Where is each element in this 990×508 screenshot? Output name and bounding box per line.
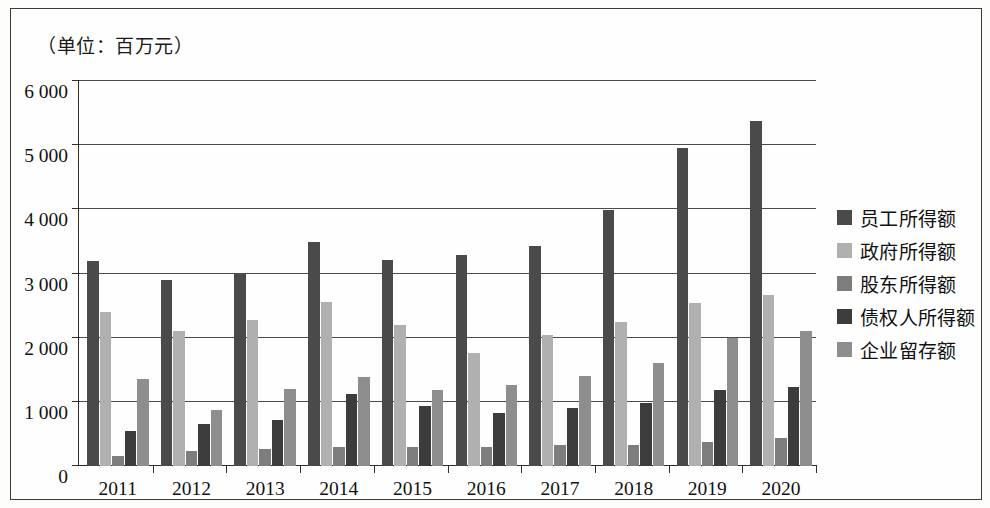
y-axis-tick [72, 208, 80, 209]
x-axis-label: 2014 [319, 478, 358, 500]
bar [775, 438, 787, 466]
bar [481, 447, 493, 466]
bar [529, 246, 541, 466]
plot-area: 01 0002 0003 0004 0005 0006 000 20112012… [79, 81, 816, 466]
x-axis-tick [448, 465, 449, 473]
bar [653, 363, 665, 466]
bar [211, 410, 223, 466]
chart-legend: 员工所得额政府所得额股东所得额债权人所得额企业留存额 [837, 201, 976, 366]
x-axis-tick [300, 465, 301, 473]
bar [689, 303, 701, 466]
bar [100, 312, 112, 466]
bar [284, 389, 296, 466]
bar [87, 261, 99, 466]
x-axis-tick [521, 465, 522, 473]
legend-item: 股东所得额 [837, 267, 976, 300]
bar [542, 335, 554, 466]
bar [333, 447, 345, 466]
legend-swatch-icon [837, 210, 852, 225]
x-axis-tick [374, 465, 375, 473]
x-axis-label: 2019 [688, 478, 727, 500]
chart-frame: （单位：百万元） 01 0002 0003 0004 0005 0006 000… [10, 8, 982, 500]
bar [394, 325, 406, 466]
y-axis-tick [72, 337, 80, 338]
bar [456, 255, 468, 466]
bar [186, 451, 198, 466]
y-axis-tick [72, 401, 80, 402]
bar [112, 456, 124, 466]
bar [677, 148, 689, 466]
bar [763, 295, 775, 466]
bar [432, 390, 444, 466]
bar [321, 302, 333, 466]
bar [567, 408, 579, 466]
bar [259, 449, 271, 466]
x-axis-label: 2017 [540, 478, 579, 500]
x-axis-label: 2013 [246, 478, 285, 500]
bar [308, 242, 320, 466]
bar [161, 280, 173, 466]
bar [198, 424, 210, 466]
bar [358, 377, 370, 466]
bar [173, 331, 185, 466]
bar [702, 442, 714, 466]
bar [506, 385, 518, 466]
bar [579, 376, 591, 466]
x-axis-tick [669, 465, 670, 473]
gridline [79, 401, 816, 402]
bar [628, 445, 640, 466]
bar [137, 379, 149, 466]
bar [407, 447, 419, 466]
bar [247, 320, 259, 466]
x-axis-label: 2020 [762, 478, 801, 500]
legend-item: 员工所得额 [837, 201, 976, 234]
x-axis-label: 2011 [99, 478, 137, 500]
bar [603, 210, 615, 466]
bar [640, 403, 652, 466]
bar [554, 445, 566, 466]
bar [493, 413, 505, 466]
bar [788, 387, 800, 466]
legend-label: 债权人所得额 [860, 303, 976, 330]
bar [272, 420, 284, 466]
gridline [79, 337, 816, 338]
x-axis-label: 2015 [393, 478, 432, 500]
bar [125, 431, 137, 466]
bar [750, 121, 762, 466]
gridline [79, 144, 816, 145]
legend-label: 员工所得额 [860, 204, 957, 231]
y-axis-tick [72, 80, 80, 81]
legend-item: 政府所得额 [837, 234, 976, 267]
legend-item: 债权人所得额 [837, 300, 976, 333]
x-axis-tick [153, 465, 154, 473]
chart-page: （单位：百万元） 01 0002 0003 0004 0005 0006 000… [0, 0, 990, 508]
legend-label: 政府所得额 [860, 237, 957, 264]
y-axis-line [78, 81, 79, 466]
legend-swatch-icon [837, 243, 852, 258]
legend-swatch-icon [837, 342, 852, 357]
y-axis-tick [72, 144, 80, 145]
x-axis-label: 2016 [467, 478, 506, 500]
legend-swatch-icon [837, 276, 852, 291]
bar [419, 406, 431, 466]
bar [727, 338, 739, 466]
bar [382, 260, 394, 466]
x-axis-label: 2018 [614, 478, 653, 500]
gridline [79, 80, 816, 81]
bar [714, 390, 726, 466]
bar [346, 394, 358, 467]
legend-swatch-icon [837, 309, 852, 324]
bar [234, 273, 246, 466]
bar [800, 331, 812, 466]
legend-item: 企业留存额 [837, 333, 976, 366]
y-axis-tick [72, 465, 80, 466]
gridline [79, 208, 816, 209]
gridline [79, 273, 816, 274]
x-axis-tick [595, 465, 596, 473]
x-axis-tick [816, 465, 817, 473]
unit-note: （单位：百万元） [37, 31, 193, 58]
y-axis-tick [72, 273, 80, 274]
bar [468, 353, 480, 466]
bar [615, 322, 627, 466]
legend-label: 企业留存额 [860, 336, 957, 363]
